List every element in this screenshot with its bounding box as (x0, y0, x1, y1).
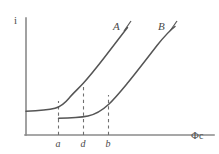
curve-label-a: A (113, 21, 120, 32)
x-tick-label-d: d (77, 139, 89, 149)
figure-container: i Фc A B a d b (0, 0, 219, 154)
x-axis-label: Фc (191, 131, 203, 141)
curve-b-label-tick (170, 21, 177, 31)
x-tick-label-b: b (102, 139, 114, 149)
curve-a-label-tick (124, 21, 131, 31)
curve-a-path (26, 28, 128, 112)
curve-label-b: B (158, 21, 165, 32)
plot-area (0, 0, 219, 154)
y-axis-label: i (14, 15, 17, 26)
x-tick-label-a: a (52, 139, 64, 149)
